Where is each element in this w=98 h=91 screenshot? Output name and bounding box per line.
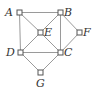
node-label-f: F: [82, 26, 91, 39]
labels-group: A B C D E F G: [4, 6, 91, 90]
node-label-e: E: [43, 26, 52, 39]
edge-a-d: [20, 13, 21, 53]
node-f: [77, 30, 82, 35]
node-d: [18, 50, 23, 55]
node-b: [58, 10, 63, 15]
node-c: [58, 50, 63, 55]
node-g: [38, 70, 43, 75]
edges-group: [20, 13, 80, 73]
graph-diagram: A B C D E F G: [0, 0, 98, 91]
node-e: [38, 30, 43, 35]
node-a: [17, 10, 22, 15]
node-label-g: G: [36, 77, 45, 90]
node-label-c: C: [64, 46, 73, 59]
node-label-a: A: [4, 6, 13, 19]
node-label-b: B: [63, 6, 72, 19]
edge-a-e: [20, 13, 41, 33]
node-label-d: D: [5, 46, 15, 59]
